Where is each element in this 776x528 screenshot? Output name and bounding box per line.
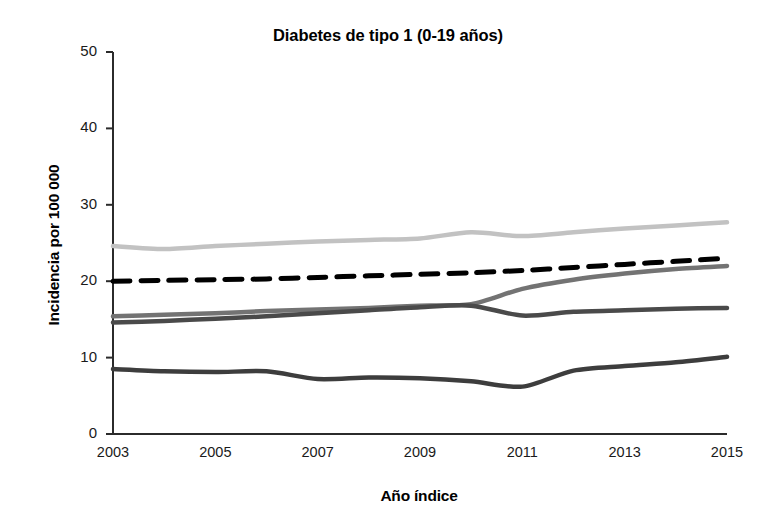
y-tick-label: 10 [53, 348, 97, 365]
y-tick-label: 40 [53, 118, 97, 135]
x-tick-label: 2015 [697, 444, 757, 460]
x-tick-label: 2013 [595, 444, 655, 460]
y-tick-marks [106, 52, 113, 434]
x-tick-label: 2007 [288, 444, 348, 460]
data-series-layer [113, 222, 727, 387]
y-tick-label: 0 [53, 424, 97, 441]
y-tick-label: 20 [53, 271, 97, 288]
y-tick-label: 30 [53, 195, 97, 212]
series-line-serie-negra-discontinua [113, 258, 727, 281]
y-tick-label: 50 [53, 42, 97, 59]
x-tick-label: 2011 [492, 444, 552, 460]
series-line-serie-oscura-inferior [113, 357, 727, 387]
x-tick-label: 2009 [390, 444, 450, 460]
x-tick-label: 2003 [83, 444, 143, 460]
chart-figure: Diabetes de tipo 1 (0-19 años) Incidenci… [0, 0, 776, 528]
x-tick-label: 2005 [185, 444, 245, 460]
series-line-serie-gris-claro [113, 222, 727, 249]
